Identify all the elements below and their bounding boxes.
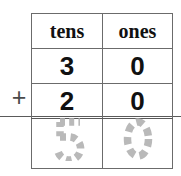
table-row: 3 0 xyxy=(32,49,173,84)
addend-one-tens-digit: 3 xyxy=(32,49,103,84)
traced-digit-zero xyxy=(103,117,172,166)
addend-two-tens-digit: 2 xyxy=(32,84,103,119)
addend-one-ones-digit: 0 xyxy=(103,49,173,84)
table-header-row: tens ones xyxy=(32,14,173,49)
column-header-ones: ones xyxy=(103,14,173,49)
answer-ones-cell[interactable] xyxy=(103,119,173,169)
addend-two-ones-digit: 0 xyxy=(103,84,173,119)
answer-tens-cell[interactable] xyxy=(32,119,103,169)
place-value-table: tens ones 3 0 2 0 xyxy=(31,13,173,169)
table-row-answer xyxy=(32,119,173,169)
traced-digit-five xyxy=(32,117,102,166)
column-header-tens: tens xyxy=(32,14,103,49)
table-row: 2 0 xyxy=(32,84,173,119)
place-value-addition-worksheet: + tens ones 3 0 2 0 xyxy=(0,0,181,176)
plus-operator-sign: + xyxy=(8,84,30,110)
